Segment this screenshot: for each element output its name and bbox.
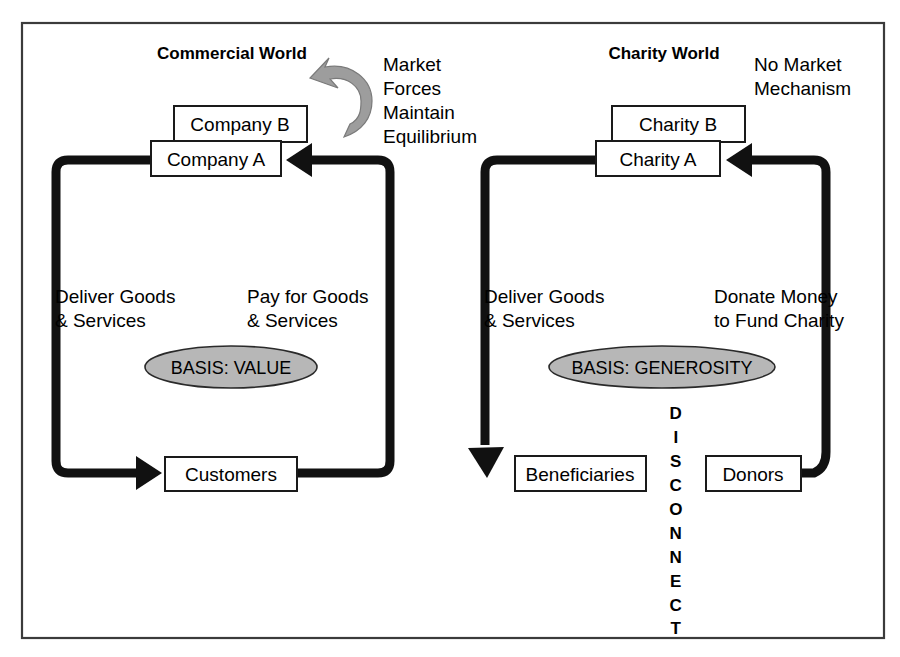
node-label-donors: Donors — [722, 464, 783, 485]
flow-arrowhead-to-charity-a — [726, 143, 752, 177]
flow-arrowhead-to-company-a — [286, 143, 312, 177]
node-label-company-a: Company A — [167, 149, 266, 170]
edge-label-charity-right-line2: to Fund Charity — [714, 310, 844, 331]
curved-arrow-icon — [310, 58, 372, 137]
edge-label-charity-left-line2: & Services — [484, 310, 575, 331]
disconnect-letter-0: D — [670, 404, 683, 423]
disconnect-letter-7: E — [670, 572, 682, 591]
flow-arrowhead-to-beneficiaries — [468, 447, 504, 478]
edge-label-charity-right-line1: Donate Money — [714, 286, 838, 307]
disconnect-letter-1: I — [673, 428, 678, 447]
diagram-canvas: Commercial World Company B Company A Cus… — [0, 0, 900, 657]
annotation-line-forces: Forces — [383, 78, 441, 99]
edge-label-commercial-right-line2: & Services — [247, 310, 338, 331]
basis-badge-generosity-label: BASIS: GENEROSITY — [571, 358, 752, 378]
diagram-root: Commercial World Company B Company A Cus… — [0, 0, 900, 657]
annotation-line-equilibrium: Equilibrium — [383, 126, 477, 147]
disconnect-letter-5: N — [670, 524, 683, 543]
panel-heading-commercial: Commercial World — [157, 44, 307, 63]
basis-badge-value-label: BASIS: VALUE — [171, 358, 292, 378]
flow-arrowhead-to-customers — [136, 456, 162, 490]
disconnect-letter-6: N — [670, 548, 683, 567]
disconnect-vertical-text: D I S C O N N E C T — [669, 404, 683, 638]
edge-label-commercial-left-line1: Deliver Goods — [55, 286, 175, 307]
panel-heading-charity: Charity World — [608, 44, 719, 63]
annotation-line-maintain: Maintain — [383, 102, 455, 123]
node-label-charity-b: Charity B — [639, 114, 717, 135]
annotation-line-no-market: No Market — [754, 54, 842, 75]
disconnect-letter-9: T — [671, 619, 682, 638]
annotation-line-market: Market — [383, 54, 442, 75]
disconnect-letter-4: O — [669, 500, 683, 519]
panel-charity: Charity World Charity B Charity A Benefi… — [468, 44, 851, 638]
node-label-charity-a: Charity A — [619, 149, 696, 170]
disconnect-letter-3: C — [670, 476, 683, 495]
disconnect-letter-2: S — [670, 452, 682, 471]
disconnect-letter-8: C — [670, 596, 683, 615]
node-label-company-b: Company B — [190, 114, 289, 135]
edge-label-charity-left-line1: Deliver Goods — [484, 286, 604, 307]
edge-label-commercial-right-line1: Pay for Goods — [247, 286, 368, 307]
node-label-beneficiaries: Beneficiaries — [526, 464, 635, 485]
node-label-customers: Customers — [185, 464, 277, 485]
annotation-line-mechanism: Mechanism — [754, 78, 851, 99]
edge-label-commercial-left-line2: & Services — [55, 310, 146, 331]
panel-commercial: Commercial World Company B Company A Cus… — [55, 44, 477, 491]
